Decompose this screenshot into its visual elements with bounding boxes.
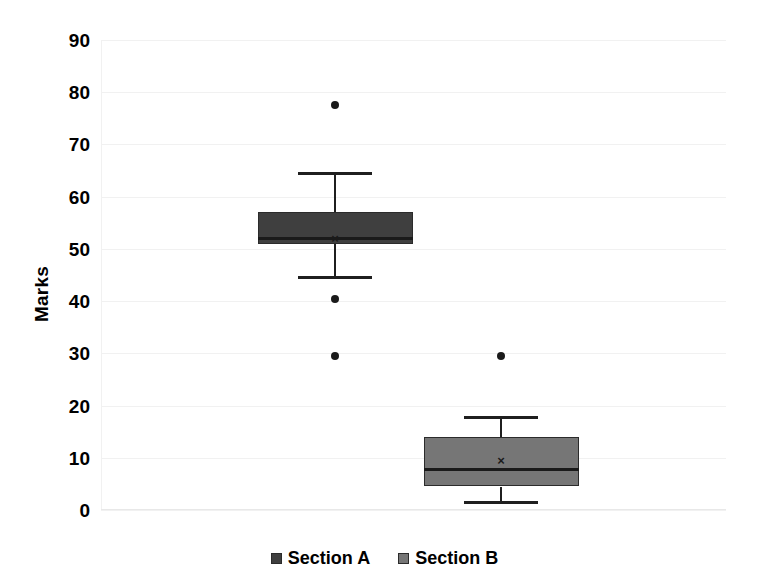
y-tick-label: 0 — [44, 501, 90, 520]
legend: Section ASection B — [0, 548, 769, 569]
legend-item-section-b[interactable]: Section B — [398, 548, 498, 569]
whisker-upper — [500, 417, 503, 437]
y-axis-tick-labels: 9080706050403020100 — [40, 0, 90, 587]
y-tick-label: 10 — [44, 448, 90, 467]
y-tick-label: 40 — [44, 292, 90, 311]
y-tick-label: 20 — [44, 396, 90, 415]
box-plot-b[interactable]: × — [101, 40, 726, 510]
boxplot-chart: Marks 9080706050403020100 ×× Section ASe… — [0, 0, 769, 587]
y-tick-label: 50 — [44, 239, 90, 258]
y-tick-label: 60 — [44, 187, 90, 206]
legend-label: Section B — [415, 548, 498, 569]
y-tick-label: 80 — [44, 83, 90, 102]
mean-marker: × — [497, 454, 505, 467]
outlier-point[interactable] — [497, 352, 505, 360]
whisker-cap-upper — [464, 416, 538, 419]
median-line — [424, 468, 579, 471]
legend-label: Section A — [288, 548, 370, 569]
legend-swatch-icon — [398, 553, 409, 564]
gridline — [101, 510, 726, 511]
plot-area: ×× — [101, 40, 726, 510]
whisker-cap-lower — [464, 501, 538, 504]
y-tick-label: 70 — [44, 135, 90, 154]
y-tick-label: 30 — [44, 344, 90, 363]
y-tick-label: 90 — [44, 31, 90, 50]
legend-swatch-icon — [271, 553, 282, 564]
legend-item-section-a[interactable]: Section A — [271, 548, 370, 569]
